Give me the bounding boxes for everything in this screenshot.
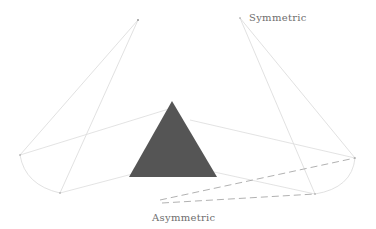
center-triangle [129, 101, 217, 177]
asymmetric-label: Asymmetric [152, 212, 215, 223]
diagram-canvas [0, 0, 376, 229]
symmetric-label: Symmetric [249, 12, 307, 23]
symmetric-left-cone [20, 20, 138, 193]
symmetric-right-cone [240, 18, 355, 194]
